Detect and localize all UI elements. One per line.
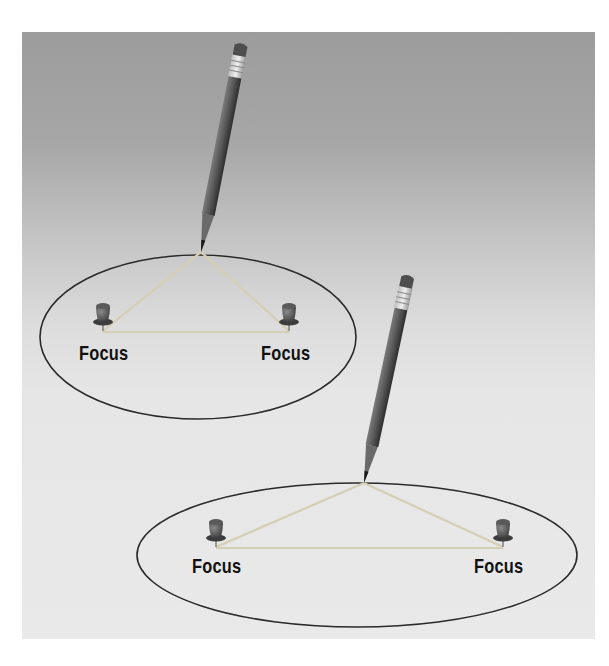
pencil-icon	[194, 42, 248, 253]
string	[103, 252, 289, 332]
focus-label-right: Focus	[261, 342, 310, 363]
pushpin-icon	[279, 303, 299, 331]
pushpin-icon	[93, 303, 113, 331]
focus-label-left: Focus	[192, 555, 241, 576]
string	[216, 483, 503, 548]
pencil-icon	[357, 274, 415, 485]
focus-label-left: Focus	[79, 342, 128, 363]
focus-label-right: Focus	[474, 555, 523, 576]
ellipse-outline	[40, 255, 356, 419]
